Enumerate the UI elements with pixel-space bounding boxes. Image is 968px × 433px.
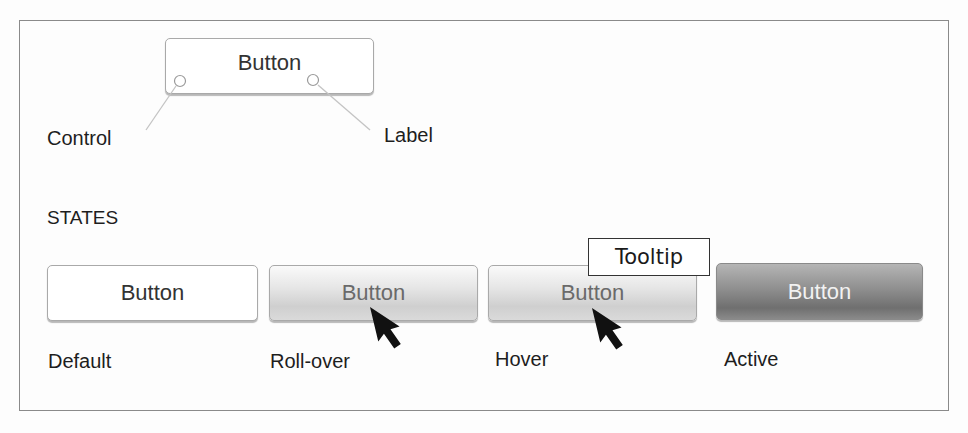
active-caption: Active (724, 348, 778, 371)
arrow-cursor-icon (581, 301, 630, 355)
hover-caption: Hover (495, 348, 548, 371)
default-caption: Default (48, 350, 111, 373)
arrow-cursor-icon (359, 300, 408, 354)
rollover-caption: Roll-over (270, 350, 350, 373)
cursor-overlay (0, 0, 968, 433)
